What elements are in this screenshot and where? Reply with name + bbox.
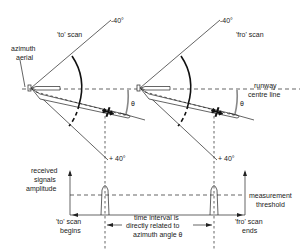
azimuth-aerial-label-line1: azimuth: [11, 45, 36, 52]
theta-arc-left: [126, 90, 128, 114]
minus-40-label-right: -40°: [220, 17, 233, 24]
time-interval-line3: azimuth angle θ: [133, 231, 183, 239]
scan-arc-right: [181, 56, 191, 105]
runway-label-line2: centre line: [248, 91, 280, 98]
fro-scan-ends-line2: ends: [242, 227, 258, 234]
time-interval-line1: time interval is: [134, 214, 179, 221]
fro-scan-label: 'fro' scan: [236, 31, 264, 38]
fro-scan-ends-line1: 'fro' scan: [235, 218, 263, 225]
theta-label-right: θ: [240, 100, 244, 107]
minus-40-line-right: [140, 20, 220, 88]
to-scan-begins-line1: 'to' scan: [56, 218, 81, 225]
azimuth-aerial-label-line2: aerial: [16, 54, 34, 61]
to-scan-begins-line2: begins: [60, 227, 81, 235]
to-scan-label: 'to' scan: [57, 31, 82, 38]
scan-arc-dashed-right: [178, 105, 188, 126]
azimuth-aerial-icon: [28, 85, 31, 91]
amplitude-label-line3: amplitude: [26, 185, 56, 193]
pulse-fro: [210, 186, 218, 216]
threshold-label-line2: threshold: [256, 201, 285, 208]
azimuth-scan-diagram: azimuth aerial 'to' scan -40° 'fro' scan…: [0, 0, 308, 252]
beam-centre-right: [141, 87, 170, 91]
plus-40-label-right: + 40°: [218, 155, 235, 162]
plus-40-label-left: + 40°: [109, 155, 126, 162]
theta-label-left: θ: [131, 100, 135, 107]
to-scan-group: [20, 20, 145, 250]
amplitude-label-line2: signals: [34, 176, 56, 184]
amplitude-axis-arrow-left: [68, 170, 72, 176]
theta-arc-right: [235, 90, 237, 114]
amplitude-axis-arrow-right: [243, 170, 247, 176]
scan-arc-dashed-left: [69, 105, 79, 126]
time-interval-line2: directly related to: [126, 222, 179, 230]
interval-arrowhead-left: [107, 223, 113, 227]
interval-arrowhead-right: [206, 223, 212, 227]
amplitude-label-line1: received: [31, 167, 58, 174]
pulse-to: [101, 186, 109, 216]
minus-40-label-left: -40°: [111, 17, 124, 24]
baseline-arrow-left: [72, 213, 78, 217]
beam-centre-left: [32, 87, 60, 91]
baseline-arrow-right: [237, 213, 243, 217]
aerial-pointer-line: [20, 60, 25, 87]
runway-label-line1: runway: [254, 82, 277, 90]
scan-arc-left: [72, 56, 82, 105]
threshold-label-line1: measurement: [249, 192, 292, 199]
azimuth-aerial-icon-right: [137, 85, 140, 91]
